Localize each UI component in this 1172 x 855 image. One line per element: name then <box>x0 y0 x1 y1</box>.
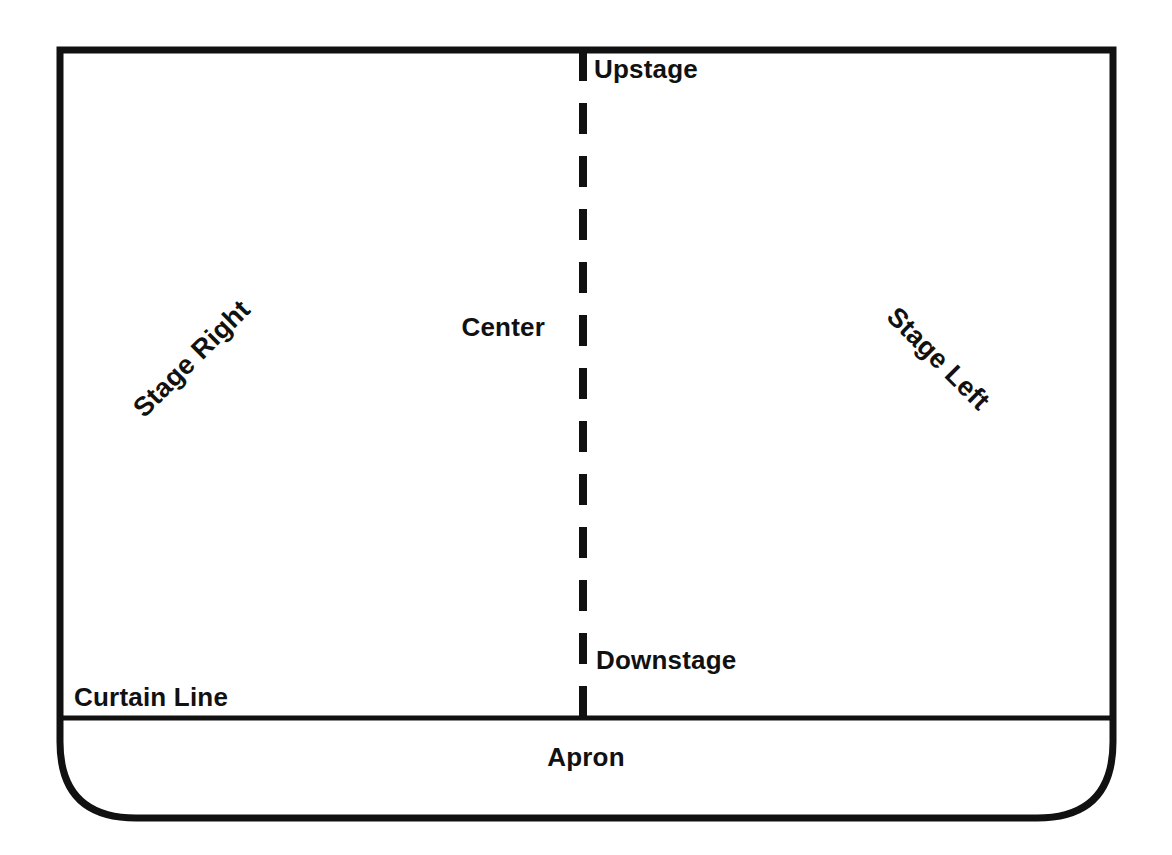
label-apron: Apron <box>547 742 625 772</box>
label-downstage: Downstage <box>596 645 736 675</box>
label-curtain-line: Curtain Line <box>74 682 228 712</box>
label-center: Center <box>461 312 545 342</box>
label-upstage: Upstage <box>594 54 698 84</box>
stage-diagram: Upstage Downstage Center Stage Right Sta… <box>0 0 1172 855</box>
